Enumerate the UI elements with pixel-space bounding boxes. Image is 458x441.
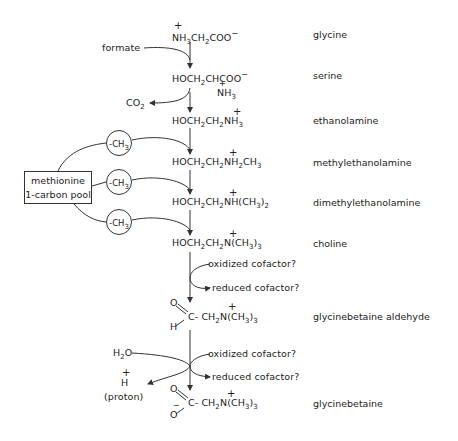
oxidized-cofactor-2: oxidized cofactor?: [208, 349, 296, 359]
charge-plus: +: [233, 107, 241, 117]
oxidized-cofactor-1: oxidized cofactor?: [208, 259, 296, 269]
label-glycinebetaine-aldehyde: glycinebetaine aldehyde: [313, 312, 430, 322]
betaine-oxygen: O: [170, 384, 178, 394]
label-ethanolamine: ethanolamine: [313, 116, 378, 126]
reduced-cofactor-1: reduced cofactor?: [212, 283, 299, 293]
methyl-group-2: -CH3: [106, 169, 132, 195]
charge-plus: +: [174, 21, 182, 31]
methylethanolamine-formula: HOCH2CH2NH2CH3: [172, 157, 261, 170]
charge-plus: +: [229, 188, 237, 198]
pool-line2: 1-carbon pool: [25, 188, 91, 202]
ethanolamine-formula: HOCH2CH2NH3: [172, 116, 243, 129]
co2-label: CO2: [126, 98, 145, 111]
label-methylethanolamine: methylethanolamine: [313, 158, 412, 168]
proton-label: (proton): [104, 392, 143, 402]
pool-line1: methionine: [25, 174, 91, 188]
glycinebetaine-aldehyde-formula: C- CH2N(CH3)3: [188, 312, 258, 325]
methyl-group-1: -CH3: [106, 130, 132, 156]
methionine-pool-box: methionine 1-carbon pool: [24, 171, 92, 204]
charge-plus: +: [229, 229, 237, 239]
label-glycine: glycine: [313, 30, 347, 40]
serine-amino: NH3: [217, 88, 236, 101]
label-dimethylethanolamine: dimethylethanolamine: [313, 198, 420, 208]
charge-plus: +: [229, 148, 237, 158]
serine-formula: HOCH2CHCOO−: [172, 71, 248, 87]
water-label: H2O: [113, 348, 132, 361]
glycine-formula: NH3CH2COO−: [172, 30, 238, 46]
charge-plus: +: [219, 80, 226, 88]
reduced-cofactor-2: reduced cofactor?: [212, 372, 299, 382]
proton-h: H: [121, 378, 128, 388]
choline-formula: HOCH2CH2N(CH3)3: [172, 238, 262, 251]
label-choline: choline: [313, 239, 347, 249]
aldehyde-hydrogen: H: [170, 322, 177, 332]
charge-plus: +: [228, 302, 236, 312]
methyl-group-3: -CH3: [106, 209, 132, 235]
glycinebetaine-formula: C- CH2N(CH3)3: [188, 398, 258, 411]
charge-plus: +: [227, 389, 235, 399]
aldehyde-oxygen: O: [170, 298, 178, 308]
formate-label: formate: [102, 43, 140, 53]
label-serine: serine: [313, 71, 342, 81]
dimethylethanolamine-formula: HOCH2CH2NH(CH3)2: [172, 197, 269, 210]
betaine-oxide: −O: [170, 410, 178, 420]
label-glycinebetaine: glycinebetaine: [313, 399, 383, 409]
